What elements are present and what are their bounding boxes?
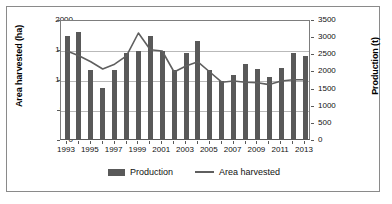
x-tick-mark xyxy=(90,141,91,144)
legend-label-production: Production xyxy=(130,167,173,177)
x-tick-mark xyxy=(256,141,257,144)
y-tick-label-right: 3000 xyxy=(318,33,358,41)
y-tick-mark-right xyxy=(311,20,314,21)
y-tick-mark-right xyxy=(311,89,314,90)
x-tick-label: 2001 xyxy=(148,146,174,154)
y-tick-label-right: 3500 xyxy=(318,16,358,24)
y-tick-mark-right xyxy=(311,54,314,55)
y-tick-mark-right xyxy=(311,140,314,141)
x-tick-mark xyxy=(66,141,67,144)
y-tick-label-right: 1500 xyxy=(318,85,358,93)
y-tick-label-right: 500 xyxy=(318,119,358,127)
legend-item-production: Production xyxy=(108,167,173,177)
chart-figure: Area harvested (ha) Production (t) 05001… xyxy=(0,0,392,204)
y-tick-label-right: 2000 xyxy=(318,67,358,75)
y-axis-title-left: Area harvested (ha) xyxy=(14,6,24,126)
x-tick-mark xyxy=(245,141,246,144)
y-tick-label-right: 0 xyxy=(318,136,358,144)
y-tick-mark-right xyxy=(311,106,314,107)
y-tick-mark-left xyxy=(57,140,60,141)
x-tick-mark xyxy=(268,141,269,144)
legend-item-area-harvested: Area harvested xyxy=(195,167,280,177)
chart-frame: Area harvested (ha) Production (t) 05001… xyxy=(6,6,380,192)
x-tick-mark xyxy=(173,141,174,144)
x-tick-mark xyxy=(114,141,115,144)
plot-area xyxy=(60,20,310,140)
x-tick-mark xyxy=(78,141,79,144)
line-series-area-harvested xyxy=(61,21,311,141)
x-tick-label: 1999 xyxy=(124,146,150,154)
x-tick-mark xyxy=(197,141,198,144)
x-tick-mark xyxy=(149,141,150,144)
x-tick-label: 2007 xyxy=(220,146,246,154)
chart-legend: Production Area harvested xyxy=(7,167,381,177)
x-tick-label: 1997 xyxy=(101,146,127,154)
x-tick-label: 2013 xyxy=(291,146,317,154)
x-tick-label: 1995 xyxy=(77,146,103,154)
y-tick-mark-right xyxy=(311,71,314,72)
y-tick-mark-right xyxy=(311,123,314,124)
bar-swatch-icon xyxy=(108,169,125,176)
x-tick-mark xyxy=(292,141,293,144)
y-tick-mark-right xyxy=(311,37,314,38)
x-tick-mark xyxy=(304,141,305,144)
x-tick-label: 2005 xyxy=(196,146,222,154)
area-harvested-polyline xyxy=(67,33,305,85)
x-tick-mark xyxy=(185,141,186,144)
x-tick-label: 2009 xyxy=(243,146,269,154)
x-tick-mark xyxy=(126,141,127,144)
x-tick-mark xyxy=(280,141,281,144)
y-axis-title-right: Production (t) xyxy=(370,6,380,126)
x-tick-label: 2003 xyxy=(172,146,198,154)
x-tick-mark xyxy=(137,141,138,144)
legend-label-area-harvested: Area harvested xyxy=(219,167,280,177)
x-tick-mark xyxy=(209,141,210,144)
x-tick-mark xyxy=(161,141,162,144)
x-tick-mark xyxy=(221,141,222,144)
y-tick-label-right: 1000 xyxy=(318,102,358,110)
x-tick-mark xyxy=(233,141,234,144)
x-tick-label: 2011 xyxy=(267,146,293,154)
y-tick-label-right: 2500 xyxy=(318,50,358,58)
line-swatch-icon xyxy=(195,171,214,173)
x-tick-label: 1993 xyxy=(53,146,79,154)
x-tick-mark xyxy=(102,141,103,144)
